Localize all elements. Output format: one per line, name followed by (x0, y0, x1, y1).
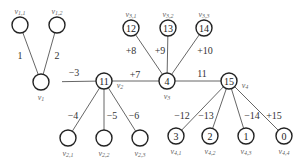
node-label: v1 (38, 93, 45, 103)
node-value: 12 (126, 23, 136, 34)
node-label: v4,2 (204, 147, 215, 157)
node-v33: 14v3,3 (196, 10, 212, 37)
node-label: v1,1 (14, 7, 25, 17)
node-v31: 12v3,1 (123, 10, 139, 37)
node-v32: 13v3,2 (160, 10, 176, 37)
edge-weight: −3 (69, 67, 80, 78)
edge-weight: −4 (68, 110, 79, 121)
edge-weight: −5 (107, 110, 118, 121)
node-v22: v2,2 (96, 130, 112, 158)
tree-svg: v1,1v1,2v111v2v2,1v2,2v2,312v3,113v3,214… (0, 0, 303, 165)
tree-diagram: v1,1v1,2v111v2v2,1v2,2v2,312v3,113v3,214… (0, 0, 303, 165)
node-circle (49, 17, 65, 33)
node-v2: 11v2 (96, 73, 123, 90)
edge-v12-v1 (43, 33, 55, 75)
node-label: v2,1 (62, 149, 73, 159)
node-v3: 4v3 (159, 73, 175, 101)
node-value: 3 (174, 131, 179, 142)
node-value: 4 (165, 76, 170, 87)
node-value: 11 (99, 76, 109, 87)
node-label: v2,2 (98, 149, 109, 159)
node-label: v3,2 (162, 10, 173, 20)
node-v4: 15v4 (221, 73, 248, 90)
edge-weight: 2 (55, 50, 60, 61)
node-circle (60, 130, 76, 146)
node-v44: 0v4,4 (276, 128, 292, 156)
edge-v32-v3 (167, 36, 168, 73)
node-label: v1,2 (51, 7, 62, 17)
node-circle (96, 130, 112, 146)
node-label: v3 (164, 92, 171, 102)
node-v11: v1,1 (12, 7, 28, 34)
node-value: 0 (282, 131, 287, 142)
node-v1: v1 (33, 74, 49, 102)
nodes: v1,1v1,2v111v2v2,1v2,2v2,312v3,113v3,214… (12, 7, 292, 159)
node-value: 15 (224, 76, 234, 87)
node-value: 13 (163, 23, 173, 34)
node-value: 2 (208, 131, 213, 142)
edge-weight: −12 (174, 110, 190, 121)
node-circle (12, 17, 28, 33)
edge-v33-v3 (172, 35, 200, 75)
edge-v4-v42 (213, 89, 227, 129)
edges (23, 33, 279, 132)
edge-weight: −13 (198, 110, 214, 121)
node-value: 1 (244, 131, 249, 142)
edge-weight: +8 (126, 45, 137, 56)
node-label: v2 (117, 81, 124, 91)
node-v41: 3v4,1 (168, 128, 184, 156)
node-circle (33, 74, 49, 90)
edge-weight: 1 (18, 50, 23, 61)
node-label: v4,4 (278, 147, 289, 157)
node-value: 14 (199, 23, 209, 34)
node-v12: v1,2 (49, 7, 65, 34)
node-v23: v2,3 (132, 130, 148, 158)
edge-weight: −14 (244, 110, 260, 121)
node-label: v3,1 (125, 10, 136, 20)
node-label: v4,1 (170, 147, 181, 157)
edge-v4-v41 (182, 87, 224, 130)
edge-weight: +7 (130, 69, 141, 80)
node-v43: 1v4,3 (238, 128, 254, 156)
node-label: v4,3 (240, 147, 251, 157)
node-v42: 2v4,2 (202, 128, 218, 156)
node-label: v3,3 (198, 10, 209, 20)
edge-v4-v43 (231, 89, 243, 129)
edge-v1-v2 (62, 81, 96, 82)
edge-v11-v1 (23, 33, 38, 75)
edge-weight: +15 (266, 110, 282, 121)
edge-weight: +9 (155, 45, 166, 56)
node-label: v2,3 (134, 149, 145, 159)
node-v21: v2,1 (60, 130, 76, 158)
node-label: v4 (242, 81, 249, 91)
edge-weight: +10 (197, 45, 213, 56)
node-circle (132, 130, 148, 146)
edge-weight: 11 (197, 68, 207, 79)
edge-v4-v44 (235, 87, 279, 131)
edge-weight: −6 (129, 110, 140, 121)
